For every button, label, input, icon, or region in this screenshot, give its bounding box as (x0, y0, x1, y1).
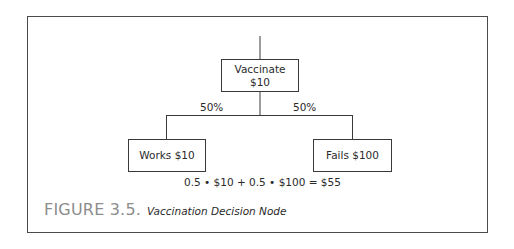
branch-probability-fails: 50% (293, 101, 316, 113)
figure-caption: FIGURE 3.5.Vaccination Decision Node (44, 200, 286, 219)
outcome-node-works: Works $10 (128, 139, 206, 172)
outcome-node-fails: Fails $100 (313, 139, 392, 172)
figure-title: Vaccination Decision Node (147, 205, 286, 217)
outcome-label: Works $10 (139, 149, 194, 162)
decision-node-vaccinate: Vaccinate $10 (221, 59, 299, 92)
branch-probability-works: 50% (200, 101, 223, 113)
outcome-label: Fails $100 (326, 149, 379, 162)
decision-node-cost: $10 (250, 76, 270, 89)
expected-value-formula: 0.5 • $10 + 0.5 • $100 = $55 (184, 176, 341, 188)
figure-label: FIGURE 3.5. (44, 200, 141, 219)
decision-node-label: Vaccinate (235, 63, 286, 76)
